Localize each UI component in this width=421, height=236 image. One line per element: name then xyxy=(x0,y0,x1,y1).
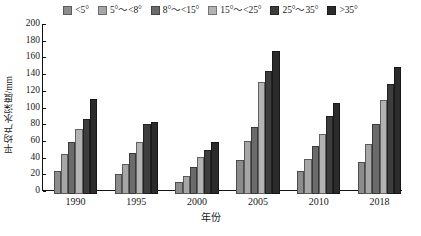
y-tick-label: 80 xyxy=(18,119,40,129)
legend-item[interactable]: >35° xyxy=(327,6,357,16)
y-tick-label: 160 xyxy=(18,53,40,63)
x-tick-label: 2018 xyxy=(370,196,390,208)
y-tick-label: 180 xyxy=(18,36,40,46)
bar[interactable] xyxy=(236,160,243,194)
chart-legend: <5°5°～<8°8°～<15°15°～<25°25°～35°>35° xyxy=(0,6,421,16)
bar[interactable] xyxy=(61,154,68,194)
bar-group xyxy=(297,27,340,194)
legend-swatch-icon xyxy=(208,6,217,15)
bar[interactable] xyxy=(312,146,319,194)
bar[interactable] xyxy=(143,124,150,194)
bar[interactable] xyxy=(190,167,197,194)
bar-groups xyxy=(43,27,408,194)
bar[interactable] xyxy=(244,141,251,194)
bar[interactable] xyxy=(151,122,158,194)
legend-swatch-icon xyxy=(63,6,72,15)
bar[interactable] xyxy=(75,129,82,194)
x-tick-label: 2000 xyxy=(187,196,207,208)
bar[interactable] xyxy=(394,67,401,194)
bar[interactable] xyxy=(380,100,387,194)
legend-item[interactable]: <5° xyxy=(63,6,89,16)
bar[interactable] xyxy=(365,144,372,194)
y-tick-mark xyxy=(43,24,46,25)
legend-label: 5°～<8° xyxy=(110,6,142,16)
bar-group xyxy=(236,27,279,194)
legend-swatch-icon xyxy=(151,6,160,15)
bar-group xyxy=(358,27,401,194)
legend-swatch-icon xyxy=(327,6,336,15)
bar[interactable] xyxy=(326,116,333,194)
legend-item[interactable]: 8°～<15° xyxy=(151,6,200,16)
bar[interactable] xyxy=(265,71,272,194)
bar[interactable] xyxy=(197,157,204,194)
y-tick-label: 120 xyxy=(18,86,40,96)
bar[interactable] xyxy=(129,153,136,194)
plot-area: 平均产水深度/mm 020406080100120140160180200 19… xyxy=(0,24,421,236)
bar[interactable] xyxy=(175,182,182,194)
bar[interactable] xyxy=(258,82,265,194)
bar[interactable] xyxy=(319,134,326,194)
legend-label: 8°～<15° xyxy=(163,6,200,16)
legend-item[interactable]: 5°～<8° xyxy=(98,6,142,16)
legend-label: 25°～35° xyxy=(282,6,318,16)
legend-label: 15°～<25° xyxy=(220,6,261,16)
x-axis-label: 年份 xyxy=(0,212,421,224)
bar[interactable] xyxy=(211,142,218,194)
bar[interactable] xyxy=(90,99,97,194)
legend-item[interactable]: 25°～35° xyxy=(270,6,318,16)
y-tick-label: 100 xyxy=(18,103,40,113)
x-tick-label: 2005 xyxy=(248,196,268,208)
bar-group xyxy=(175,27,218,194)
bar[interactable] xyxy=(387,84,394,194)
bar[interactable] xyxy=(372,124,379,194)
x-tick-label: 2010 xyxy=(309,196,329,208)
bar[interactable] xyxy=(358,162,365,194)
x-tick-label: 1990 xyxy=(65,196,85,208)
bar[interactable] xyxy=(204,150,211,194)
bar-chart: <5°5°～<8°8°～<15°15°～<25°25°～35°>35° 平均产水… xyxy=(0,0,421,236)
y-axis-tick-labels: 020406080100120140160180200 xyxy=(18,24,40,194)
x-tick-label: 1995 xyxy=(126,196,146,208)
bar[interactable] xyxy=(83,119,90,194)
y-tick-label: 200 xyxy=(18,19,40,29)
y-tick-label: 20 xyxy=(18,170,40,180)
bar[interactable] xyxy=(297,171,304,194)
bar[interactable] xyxy=(115,174,122,194)
y-tick-label: 60 xyxy=(18,136,40,146)
bar[interactable] xyxy=(68,142,75,194)
legend-swatch-icon xyxy=(98,6,107,15)
bar[interactable] xyxy=(136,142,143,194)
bar[interactable] xyxy=(183,176,190,194)
y-axis-label: 平均产水深度/mm xyxy=(4,76,18,153)
y-tick-label: 40 xyxy=(18,153,40,163)
bar-group xyxy=(115,27,158,194)
bar-group xyxy=(54,27,97,194)
y-tick-label: 0 xyxy=(18,186,40,196)
x-axis-tick-labels: 199019952000200520102018 xyxy=(43,196,408,210)
bar[interactable] xyxy=(54,171,61,194)
legend-swatch-icon xyxy=(270,6,279,15)
legend-item[interactable]: 15°～<25° xyxy=(208,6,261,16)
legend-label: >35° xyxy=(339,6,357,16)
bar[interactable] xyxy=(333,103,340,194)
y-tick-label: 140 xyxy=(18,69,40,79)
bar[interactable] xyxy=(251,127,258,194)
legend-label: <5° xyxy=(75,6,89,16)
bar[interactable] xyxy=(122,164,129,194)
bar[interactable] xyxy=(272,51,279,194)
bar[interactable] xyxy=(304,159,311,194)
